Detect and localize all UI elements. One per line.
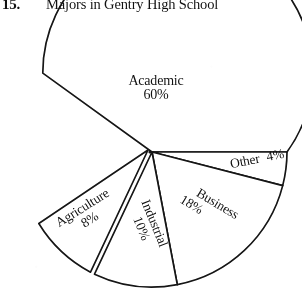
pie-center-point [148,150,151,153]
item-number: 15. [2,0,20,13]
page-title: Majors in Gentry High School [46,0,218,13]
chart-header: 15. Majors in Gentry High School [0,0,302,14]
pie-label-academic: Academic 60% [104,74,208,103]
pie-label-academic-name: Academic [104,74,208,88]
pie-label-academic-percent: 60% [104,88,208,102]
